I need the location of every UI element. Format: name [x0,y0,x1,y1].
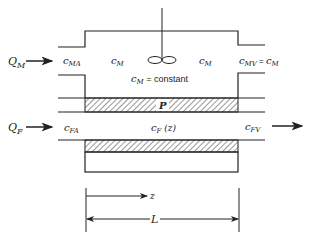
lower-chamber [58,140,265,172]
label-cm-right: cM [199,55,213,68]
stirrer-icon [148,8,176,64]
label-z: z [149,191,155,201]
label-length: L [150,213,158,226]
diagram-canvas: QM cMA cM cM cMV = cM cM = constant P QF… [0,0,312,235]
membrane-diagram: QM cMA cM cM cMV = cM cM = constant P QF… [0,0,312,235]
label-cm-constant: cM = constant [131,73,189,86]
label-cfv: cFV [245,121,261,134]
label-membrane-p: P [158,100,167,111]
label-cfa: cFA [64,122,79,135]
label-cmv: cMV = cM [239,55,280,68]
label-qf: QF [8,121,23,136]
label-cf-z: cF (z) [151,122,177,135]
dimension-lines [86,188,239,232]
label-qm: QM [8,55,26,70]
label-cma: cMA [63,55,81,68]
label-cm-left: cM [111,55,125,68]
